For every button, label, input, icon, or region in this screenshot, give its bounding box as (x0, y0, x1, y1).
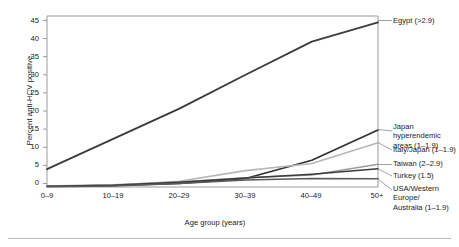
series-label-italy-japan: Italy/Japan (1–1.9) (393, 145, 456, 154)
plot-area (0, 0, 459, 247)
chart-figure: Percent anti-HCV positive 45 40 35 30 25… (0, 0, 459, 247)
series-label-usa-weurope-australia: USA/Western Europe/ Australia (1–1.9) (393, 184, 459, 212)
x-axis-title: Age group (years) (0, 218, 430, 227)
footer-divider (8, 238, 451, 239)
leader-lines (378, 21, 392, 191)
series-label-egypt: Egypt (>2.9) (393, 16, 435, 25)
series-label-turkey: Turkey (1.5) (393, 171, 434, 180)
x-tick-label-40-49: 40–49 (281, 191, 341, 200)
series-line (47, 164, 378, 186)
series-line (47, 22, 378, 169)
data-series-group (47, 22, 378, 186)
x-tick-label-30-39: 30–39 (215, 191, 275, 200)
x-tick-label-10-19: 10–19 (83, 191, 143, 200)
x-tick-label-20-29: 20–29 (149, 191, 209, 200)
series-line (47, 169, 378, 186)
series-label-taiwan: Taiwan (2–2.9) (393, 159, 443, 168)
x-tick-label-0-9: 0–9 (17, 191, 77, 200)
y-tick-marks (43, 20, 47, 183)
